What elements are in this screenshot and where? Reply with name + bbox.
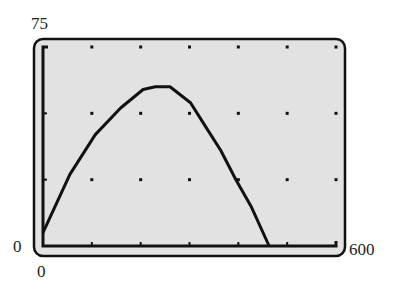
screen-frame <box>34 39 345 256</box>
calculator-graph-screen <box>0 0 403 297</box>
